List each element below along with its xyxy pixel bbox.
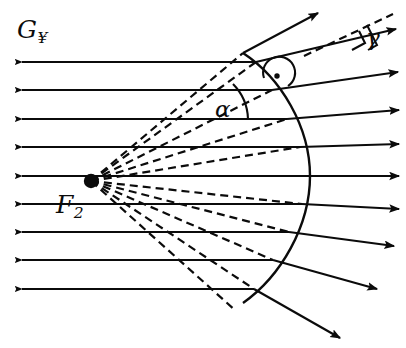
focus-point-marker <box>84 174 98 188</box>
reflected-ray <box>272 72 398 90</box>
label-focus-base: F <box>56 190 73 219</box>
label-incident-field: G¥ <box>17 17 47 47</box>
reflected-ray <box>254 289 340 338</box>
incident-rays-group <box>22 62 312 289</box>
radial-dashed-ray <box>91 62 256 181</box>
radial-dashed-rays-group <box>91 53 302 311</box>
reflected-ray <box>300 144 399 147</box>
incidence-angle-dot-icon <box>274 73 279 78</box>
radial-dashed-ray <box>91 181 254 289</box>
label-incident-field-subscript: ¥ <box>37 29 47 47</box>
radial-dashed-ray <box>91 119 287 181</box>
reflected-ray <box>287 110 399 119</box>
label-incident-field-base: G <box>17 15 37 44</box>
radial-dashed-ray <box>91 181 302 204</box>
reflected-ray <box>289 232 394 246</box>
label-angle-alpha: α <box>215 98 231 121</box>
reflected-ray <box>302 204 399 209</box>
label-angle-gamma: γ <box>366 26 380 49</box>
incidence-angle-arc <box>263 57 295 86</box>
ray-diagram-svg <box>0 0 406 348</box>
label-focus: F2 <box>56 192 84 222</box>
gamma-angle-bracket <box>352 31 365 50</box>
diagram-canvas: G¥ F2 α γ <box>0 0 406 348</box>
radial-dashed-ray <box>91 181 236 311</box>
label-focus-subscript: 2 <box>73 204 83 222</box>
reflected-ray <box>273 260 377 289</box>
reflected-ray <box>243 13 318 53</box>
